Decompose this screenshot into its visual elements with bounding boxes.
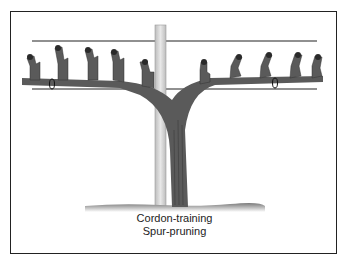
caption-line-1: Cordon-training [0,212,349,225]
vine-trunk [22,76,323,207]
caption-line-2: Spur-pruning [0,225,349,238]
